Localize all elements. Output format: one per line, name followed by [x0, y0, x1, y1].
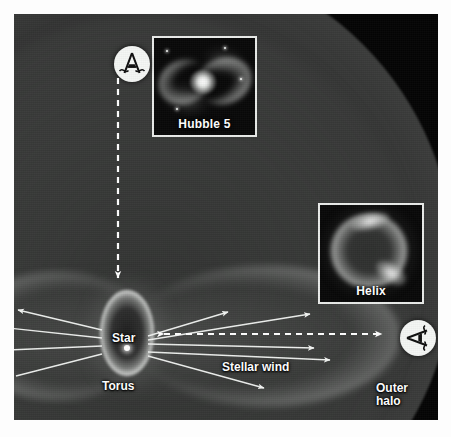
inset-caption-helix: Helix — [320, 284, 422, 298]
central-star — [124, 345, 130, 351]
figure-canvas: Hubble 5 Helix — [0, 0, 451, 437]
label-stellar-wind: Stellar wind — [222, 361, 289, 374]
background-star — [240, 78, 242, 80]
nebula-core — [190, 70, 216, 94]
background-star — [166, 50, 168, 52]
observer-telescope-icon — [403, 323, 433, 353]
label-torus: Torus — [102, 380, 134, 393]
observer-telescope-icon-right[interactable] — [400, 320, 436, 356]
observer-telescope-icon-top[interactable] — [114, 46, 150, 82]
background-star — [224, 47, 226, 49]
inset-hubble5[interactable]: Hubble 5 — [152, 36, 257, 137]
label-outer-halo: Outer halo — [376, 382, 408, 409]
inset-caption-hubble5: Hubble 5 — [154, 117, 255, 131]
diagram-panel: Hubble 5 Helix — [14, 14, 438, 420]
background-star — [176, 108, 178, 110]
inset-helix[interactable]: Helix — [318, 203, 424, 304]
label-star: Star — [112, 332, 135, 345]
observer-telescope-icon — [117, 49, 147, 79]
